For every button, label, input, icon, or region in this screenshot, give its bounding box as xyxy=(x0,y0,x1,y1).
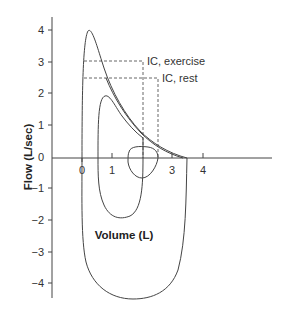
y-tick-neg3: −3 xyxy=(31,246,44,258)
y-tick-neg2: −2 xyxy=(31,214,44,226)
ic-exercise-label: IC, exercise xyxy=(147,55,205,67)
ic-rest-label: IC, rest xyxy=(162,72,197,84)
y-tick-1: 1 xyxy=(38,119,44,131)
flow-volume-chart: 4 3 2 1 0 −1 −2 −3 −4 0 1 3 4 Flow (L/se… xyxy=(0,0,288,316)
y-tick-4: 4 xyxy=(38,24,44,36)
y-tick-3: 3 xyxy=(38,56,44,68)
exercise-expiratory-limb xyxy=(106,78,183,158)
x-tick-1: 1 xyxy=(109,164,115,176)
x-tick-4: 4 xyxy=(200,164,206,176)
y-axis-title: Flow (L/sec) xyxy=(22,124,34,191)
y-tick-neg4: −4 xyxy=(31,277,44,289)
ic-exercise-lines xyxy=(84,61,143,158)
x-axis-title: Volume (L) xyxy=(95,229,154,241)
y-ticks xyxy=(48,30,52,283)
ic-rest-lines xyxy=(84,78,158,158)
exercise-tidal-loop xyxy=(98,96,143,218)
x-tick-3: 3 xyxy=(169,164,175,176)
y-tick-2: 2 xyxy=(38,87,44,99)
y-tick-0: 0 xyxy=(38,151,44,163)
